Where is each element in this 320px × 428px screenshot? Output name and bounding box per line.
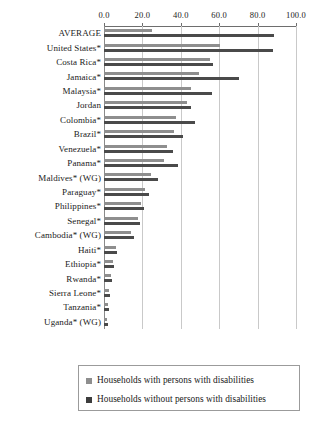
bar (104, 135, 183, 138)
bar-chart: 0.020.040.060.080.0100.0 AVERAGEUnited S… (0, 0, 320, 428)
bar (104, 260, 113, 263)
bar-group (104, 69, 296, 83)
x-axis-tick-label: 80.0 (250, 10, 266, 20)
bar (104, 265, 114, 268)
bar (104, 173, 151, 176)
bar (104, 116, 176, 119)
bar (104, 77, 239, 80)
bar (104, 121, 195, 124)
bar-group (104, 300, 296, 314)
x-axis-tick-label: 100.0 (286, 10, 306, 20)
y-axis-category-label: United States* (0, 43, 101, 53)
bar-group (104, 199, 296, 213)
legend-item-label: Households without persons with disabili… (97, 394, 266, 405)
y-axis-category-label: AVERAGE (0, 28, 101, 38)
bar (104, 308, 109, 311)
bar (104, 164, 178, 167)
y-axis-category-label: Rwanda* (0, 274, 101, 284)
y-axis-category-labels: AVERAGEUnited States*Costa Rica*Jamaica*… (0, 26, 101, 329)
y-axis-category-label: Malaysia* (0, 86, 101, 96)
bar (104, 145, 167, 148)
gridline (296, 26, 297, 329)
legend-item: Households without persons with disabili… (86, 390, 293, 409)
y-axis-category-label: Uganda* (WG) (0, 317, 101, 327)
bar (104, 178, 158, 181)
legend-item-label: Households with persons with disabilitie… (97, 375, 254, 386)
bar (104, 29, 152, 32)
y-axis-category-label: Venezuela* (0, 144, 101, 154)
bar (104, 222, 140, 225)
y-axis-category-label: Jamaica* (0, 72, 101, 82)
y-axis-category-label: Colombia* (0, 115, 101, 125)
bar-group (104, 286, 296, 300)
bar (104, 217, 138, 220)
bar (104, 294, 110, 297)
bar-group (104, 26, 296, 40)
y-axis-category-label: Sierra Leone* (0, 288, 101, 298)
bar (104, 193, 149, 196)
bar (104, 289, 109, 292)
bar-group (104, 170, 296, 184)
legend-swatch-icon (86, 378, 92, 384)
bar (104, 63, 213, 66)
bar-group (104, 315, 296, 329)
bar (104, 130, 174, 133)
bar-group (104, 271, 296, 285)
plot-area (104, 26, 296, 329)
y-axis-category-label: Haiti* (0, 245, 101, 255)
bar (104, 150, 173, 153)
x-axis-tick-mark (296, 23, 297, 26)
bar-group (104, 55, 296, 69)
y-axis-category-label: Paraguay* (0, 187, 101, 197)
bar-group (104, 257, 296, 271)
x-axis-tick-label: 60.0 (211, 10, 227, 20)
bar-group (104, 98, 296, 112)
bar (104, 49, 273, 52)
y-axis-category-label: Jordan (0, 100, 101, 110)
bar (104, 159, 164, 162)
y-axis-category-label: Ethiopia* (0, 259, 101, 269)
bar (104, 318, 107, 321)
bar-rows (104, 26, 296, 329)
y-axis-category-label: Panama* (0, 158, 101, 168)
bar (104, 106, 191, 109)
x-axis-tick-label: 40.0 (173, 10, 189, 20)
bar (104, 236, 134, 239)
bar (104, 303, 108, 306)
x-axis-tick-label: 0.0 (98, 10, 109, 20)
bar (104, 279, 112, 282)
y-axis-category-label: Maldives* (WG) (0, 173, 101, 183)
y-axis-category-label: Costa Rica* (0, 57, 101, 67)
bar (104, 58, 210, 61)
bar (104, 101, 187, 104)
y-axis-category-label: Philippines* (0, 201, 101, 211)
y-axis-category-label: Brazil* (0, 129, 101, 139)
bar (104, 246, 116, 249)
legend-item: Households with persons with disabilitie… (86, 371, 293, 390)
bar (104, 188, 145, 191)
bar (104, 34, 274, 37)
bar-group (104, 242, 296, 256)
y-axis-category-label: Tanzania* (0, 302, 101, 312)
x-axis-tick-label: 20.0 (135, 10, 151, 20)
bar (104, 72, 199, 75)
bar (104, 274, 111, 277)
bar (104, 207, 144, 210)
y-axis-category-label: Senegal* (0, 216, 101, 226)
legend-swatch-icon (86, 397, 92, 403)
x-axis-tick-labels: 0.020.040.060.080.0100.0 (0, 4, 320, 24)
bar-group (104, 40, 296, 54)
y-axis-category-label: Cambodia* (WG) (0, 230, 101, 240)
bar (104, 87, 191, 90)
bar (104, 231, 131, 234)
bar-group (104, 127, 296, 141)
bar-group (104, 156, 296, 170)
chart-legend: Households with persons with disabilitie… (78, 365, 300, 411)
bar-group (104, 84, 296, 98)
bar (104, 323, 108, 326)
bar-group (104, 185, 296, 199)
bar-group (104, 228, 296, 242)
bar-group (104, 214, 296, 228)
bar-group (104, 113, 296, 127)
bar (104, 92, 212, 95)
